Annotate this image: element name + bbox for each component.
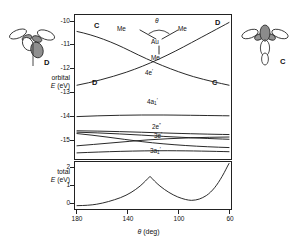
molecule-label-me-bottom: Me bbox=[151, 54, 160, 61]
curve-total-energy bbox=[77, 163, 229, 205]
figure-root: D C orbital E (eV) total E (eV) -10 -11 bbox=[0, 0, 297, 242]
orbital-caption-line1: orbital bbox=[51, 74, 70, 81]
xtick-mark-180 bbox=[76, 210, 77, 214]
molecule-label-me-right: Me bbox=[178, 25, 187, 32]
orbital-label-3a1: 3a1′ bbox=[150, 148, 161, 155]
xtick-mark-60 bbox=[229, 210, 230, 214]
xtick-60: 60 bbox=[219, 216, 241, 223]
ytick-orbital--15: -15 bbox=[48, 137, 70, 144]
total-energy-plot bbox=[75, 162, 231, 209]
ytick-orbital--10: -10 bbox=[48, 18, 70, 25]
ytick-total-1: 1 bbox=[50, 182, 70, 189]
curve-4a1 bbox=[77, 115, 229, 117]
xtick-mark-140 bbox=[127, 210, 128, 214]
total-energy-panel bbox=[74, 161, 232, 210]
curve-label-d-upper-right: D bbox=[215, 19, 220, 26]
curve-label-d-lower-left: D bbox=[92, 79, 97, 86]
orbital-label-2e2: 2e″ bbox=[152, 124, 161, 130]
orbital-label-4e-prime: ′ bbox=[152, 68, 153, 74]
ytick-orbital--14: -14 bbox=[48, 113, 70, 120]
curve-label-c-lower-right: C bbox=[212, 79, 217, 86]
orbital-label-2e2-prime: ″ bbox=[159, 122, 161, 128]
x-axis-label: θ (deg) bbox=[0, 228, 297, 235]
xtick-140: 140 bbox=[117, 216, 139, 223]
side-diagram-label-c: C bbox=[280, 57, 285, 66]
ytick-total-0: 0 bbox=[50, 200, 70, 207]
xtick-180: 180 bbox=[66, 216, 88, 223]
ytick-orbital--11: -11 bbox=[48, 41, 70, 48]
xtick-mark-100 bbox=[178, 210, 179, 214]
molecule-label-me-left: Me bbox=[117, 25, 126, 32]
orbital-label-4a1-prime: ′ bbox=[157, 97, 158, 103]
molecule-label-au: Au bbox=[151, 38, 159, 45]
curve-label-c-upper-left: C bbox=[94, 22, 99, 29]
molecule-angle-theta: θ bbox=[155, 17, 159, 24]
x-axis-label-unit: (deg) bbox=[141, 228, 159, 235]
orbital-label-3a1-prime: ′ bbox=[160, 146, 161, 152]
orbital-label-4e: 4e′ bbox=[145, 70, 153, 76]
ytick-orbital--13: -13 bbox=[48, 89, 70, 96]
ytick-orbital--12: -12 bbox=[48, 65, 70, 72]
xtick-100: 100 bbox=[168, 216, 190, 223]
orbital-label-3e: 3e′ bbox=[154, 133, 162, 139]
orbital-lobe-diagram-c bbox=[240, 18, 292, 76]
orbital-label-4a1: 4a1′ bbox=[147, 99, 158, 106]
ytick-total-2: 2 bbox=[50, 164, 70, 171]
orbital-label-3e-prime: ′ bbox=[161, 131, 162, 137]
